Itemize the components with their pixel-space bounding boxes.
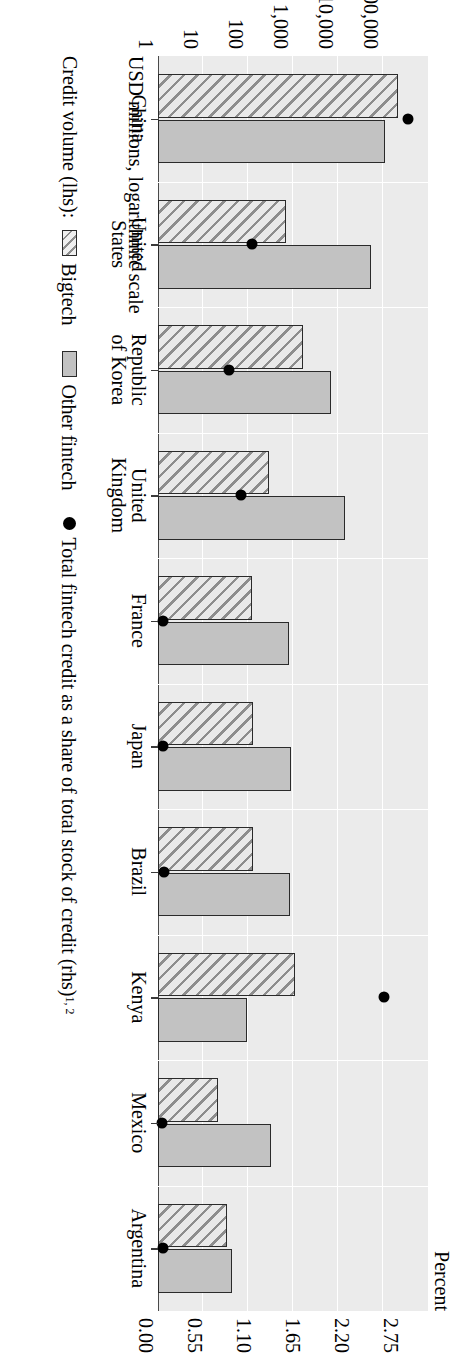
left-axis-tick-label: 1,000: [269, 4, 292, 49]
bar-other-fintech[interactable]: [158, 1124, 271, 1167]
gridline-vertical: [158, 1060, 428, 1061]
bar-other-fintech[interactable]: [158, 371, 331, 414]
left-axis-tick-label: 100: [224, 19, 247, 49]
gridline-vertical: [158, 809, 428, 810]
bar-other-fintech[interactable]: [158, 245, 371, 288]
bar-other-fintech[interactable]: [158, 120, 385, 163]
bar-bigtech[interactable]: [158, 576, 252, 619]
gridline-vertical: [158, 1186, 428, 1187]
category-label-united-states: UnitedStates: [108, 217, 149, 271]
category-label-mexico: Mexico: [129, 1092, 149, 1153]
dot-total-fintech-share[interactable]: [159, 866, 170, 877]
legend-item-share-dot[interactable]: Total fintech credit as a share of total…: [60, 517, 80, 1015]
dot-total-fintech-share[interactable]: [158, 1243, 169, 1254]
plot-area: 1101001,00010,000100,0000.000.551.101.65…: [158, 56, 428, 1311]
left-axis-tick-label: 100,000: [359, 0, 382, 49]
category-tick: [151, 1123, 158, 1125]
plot-inner: 1101001,00010,000100,0000.000.551.101.65…: [158, 56, 428, 1311]
dot-total-fintech-share[interactable]: [402, 113, 413, 124]
bar-bigtech[interactable]: [158, 1078, 218, 1121]
category-tick: [151, 621, 158, 623]
bar-bigtech[interactable]: [158, 74, 398, 117]
gridline-vertical: [158, 433, 428, 434]
gridline-vertical: [158, 307, 428, 308]
bar-bigtech[interactable]: [158, 325, 303, 368]
gridline-vertical: [158, 684, 428, 685]
bar-other-fintech[interactable]: [158, 747, 291, 790]
right-axis-tick-label: 0.55: [183, 1318, 206, 1353]
category-label-republic-of-korea: Republicof Korea: [108, 334, 149, 406]
other-fintech-swatch-icon: [62, 351, 77, 377]
bar-other-fintech[interactable]: [158, 998, 247, 1041]
category-label-china: China: [129, 95, 149, 143]
category-tick: [151, 746, 158, 748]
category-label-argentina: Argentina: [129, 1208, 149, 1288]
category-label-brazil: Brazil: [129, 847, 149, 896]
left-axis-tick-label: 10,000: [314, 0, 337, 49]
category-tick: [151, 119, 158, 121]
legend-dot-footnote: 1, 2: [62, 996, 77, 1014]
right-axis-title: Percent: [430, 1251, 453, 1311]
bar-bigtech[interactable]: [158, 827, 253, 870]
bar-bigtech[interactable]: [158, 953, 295, 996]
category-label-united-kingdom: UnitedKingdom: [108, 457, 149, 533]
right-axis-tick-label: 2.75: [379, 1318, 402, 1353]
gridline-vertical: [158, 182, 428, 183]
category-label-japan: Japan: [129, 723, 149, 769]
chart-legend: Credit volume (lhs): Bigtech Other finte…: [58, 56, 81, 1040]
legend-dot-label: Total fintech credit as a share of total…: [60, 538, 80, 997]
legend-other-fintech-label: Other fintech: [60, 384, 80, 490]
bar-bigtech[interactable]: [158, 451, 269, 494]
bigtech-swatch-icon: [62, 230, 77, 256]
dot-total-fintech-share[interactable]: [157, 1117, 168, 1128]
bar-other-fintech[interactable]: [158, 622, 289, 665]
legend-item-other-fintech[interactable]: Other fintech: [60, 351, 80, 490]
category-tick: [151, 872, 158, 874]
bar-other-fintech[interactable]: [158, 873, 290, 916]
category-tick: [151, 244, 158, 246]
category-tick: [151, 495, 158, 497]
dot-total-fintech-share[interactable]: [158, 741, 169, 752]
right-axis-tick-label: 2.20: [330, 1318, 353, 1353]
gridline-vertical: [158, 558, 428, 559]
bar-bigtech[interactable]: [158, 200, 286, 243]
dot-total-fintech-share[interactable]: [246, 239, 257, 250]
category-tick: [151, 997, 158, 999]
left-axis-tick-label: 1: [134, 39, 157, 49]
right-axis-tick-label: 0.00: [134, 1318, 157, 1353]
category-label-kenya: Kenya: [129, 971, 149, 1023]
right-axis-tick-label: 1.10: [232, 1318, 255, 1353]
left-axis-tick-label: 10: [179, 29, 202, 49]
dot-swatch-icon: [63, 517, 76, 530]
legend-bigtech-label: Bigtech: [60, 263, 80, 325]
bar-other-fintech[interactable]: [158, 1249, 232, 1292]
dot-total-fintech-share[interactable]: [378, 992, 389, 1003]
bar-bigtech[interactable]: [158, 702, 253, 745]
bar-bigtech[interactable]: [158, 1204, 227, 1247]
legend-item-bigtech[interactable]: Bigtech: [60, 230, 80, 325]
legend-credit-volume-label: Credit volume (lhs):: [58, 56, 81, 218]
dot-total-fintech-share[interactable]: [236, 490, 247, 501]
category-tick: [151, 370, 158, 372]
chart-canvas: USD millions, logarithmic scale Percent …: [0, 0, 453, 1356]
gridline-vertical: [158, 935, 428, 936]
right-axis-tick-label: 1.65: [281, 1318, 304, 1353]
dot-total-fintech-share[interactable]: [158, 615, 169, 626]
category-label-france: France: [129, 594, 149, 648]
bar-other-fintech[interactable]: [158, 496, 345, 539]
dot-total-fintech-share[interactable]: [224, 364, 235, 375]
category-tick: [151, 1248, 158, 1250]
